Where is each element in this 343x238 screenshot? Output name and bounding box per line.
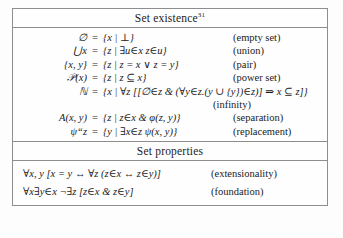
axiom-label: (power set) — [231, 71, 281, 84]
axiom-rhs: {z | z = x ∨ z = y} — [103, 58, 231, 71]
axiom-table: Set existence31 ∅ = {x | ⊥} (empty set) … — [12, 8, 328, 206]
section-title-set-properties: Set properties — [137, 145, 203, 157]
section-title-set-existence: Set existence — [135, 12, 198, 24]
axiom-row-union: ⋃x = {z | ∃u∈x z∈u} (union) — [13, 44, 327, 57]
axiom-equals: = — [87, 58, 103, 71]
section-footnote-marker: 31 — [198, 11, 205, 19]
axiom-lhs: ℕ — [13, 85, 87, 98]
axiom-rhs: {y | ∃x∈z ψ(x, y)} — [103, 125, 231, 138]
axiom-row-empty-set: ∅ = {x | ⊥} (empty set) — [13, 31, 327, 44]
axiom-lhs: 𝒫(x) — [13, 71, 87, 84]
axiom-rhs: {x | ∀z [[∅∈z & (∀y∈z.(y ∪ {y})∈z)] ⇒ x … — [103, 85, 273, 98]
property-formula: ∀x∃y∈x ¬∃z [z∈x & z∈y] — [13, 185, 211, 198]
axiom-lhs: ∅ — [13, 31, 87, 44]
axiom-label: (empty set) — [231, 31, 281, 44]
axiom-lhs: ψ“z — [13, 125, 87, 138]
axiom-rhs: {x | ⊥} — [103, 31, 231, 44]
axiom-label: (replacement) — [231, 125, 291, 138]
axiom-equals: = — [87, 85, 103, 98]
axiom-row-infinity: ℕ = {x | ∀z [[∅∈z & (∀y∈z.(y ∪ {y})∈z)] … — [13, 85, 327, 98]
axiom-rhs: {z | ∃u∈x z∈u} — [103, 44, 231, 57]
property-label: (extensionality) — [211, 167, 277, 180]
axiom-row-pair: {x, y} = {z | z = x ∨ z = y} (pair) — [13, 58, 327, 71]
property-formula: ∀x, y [x = y ↔ ∀z (z∈x ↔ z∈y)] — [13, 167, 211, 180]
property-row-foundation: ∀x∃y∈x ¬∃z [z∈x & z∈y] (foundation) — [13, 183, 327, 200]
axiom-label: (union) — [231, 44, 264, 57]
set-properties-rows: ∀x, y [x = y ↔ ∀z (z∈x ↔ z∈y)] (extensio… — [13, 161, 327, 205]
axiom-row-replacement: ψ“z = {y | ∃x∈z ψ(x, y)} (replacement) — [13, 125, 327, 138]
axiom-equals: = — [87, 71, 103, 84]
axiom-label: (infinity) — [13, 98, 251, 111]
property-row-extensionality: ∀x, y [x = y ↔ ∀z (z∈x ↔ z∈y)] (extensio… — [13, 165, 327, 182]
axiom-label: (separation) — [231, 111, 283, 124]
document-page: Set existence31 ∅ = {x | ⊥} (empty set) … — [0, 0, 343, 238]
set-existence-rows: ∅ = {x | ⊥} (empty set) ⋃x = {z | ∃u∈x z… — [13, 28, 327, 141]
axiom-row-power-set: 𝒫(x) = {z | z ⊆ x} (power set) — [13, 71, 327, 84]
axiom-lhs: A(x, y) — [13, 111, 87, 124]
property-label: (foundation) — [211, 185, 264, 198]
axiom-row-infinity-label-line: (infinity) — [13, 98, 327, 111]
axiom-row-separation: A(x, y) = {z | z∈x & φ(z, y)} (separatio… — [13, 111, 327, 124]
section-header-set-existence: Set existence31 — [13, 9, 327, 28]
axiom-equals: = — [87, 111, 103, 124]
axiom-lhs: ⋃x — [13, 44, 87, 57]
axiom-rhs: {z | z ⊆ x} — [103, 71, 231, 84]
axiom-equals: = — [87, 44, 103, 57]
axiom-rhs: {z | z∈x & φ(z, y)} — [103, 111, 231, 124]
axiom-equals: = — [87, 31, 103, 44]
axiom-lhs: {x, y} — [13, 58, 87, 71]
section-header-set-properties: Set properties — [13, 141, 327, 161]
axiom-equals: = — [87, 125, 103, 138]
axiom-label: (pair) — [231, 58, 256, 71]
